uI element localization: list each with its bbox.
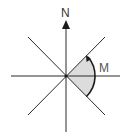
angle-label: M bbox=[99, 61, 109, 75]
north-arrow-icon bbox=[62, 20, 70, 29]
center-point bbox=[64, 74, 67, 77]
north-label: N bbox=[61, 6, 70, 20]
compass-angle-diagram: N M bbox=[0, 0, 132, 137]
